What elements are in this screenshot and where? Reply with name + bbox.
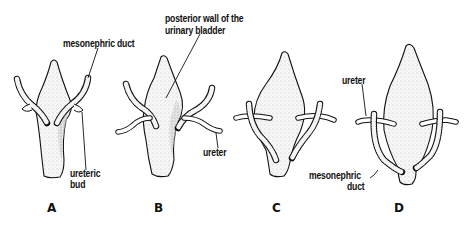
panel-d-drawing xyxy=(358,44,456,184)
label-ureteric-bud-line2: bud xyxy=(70,179,85,190)
diagram-canvas: mesonephric duct ureteric bud posterior … xyxy=(0,0,474,225)
panel-letter-c: C xyxy=(272,201,281,215)
label-ureter-d: ureter xyxy=(342,75,365,86)
panel-c-drawing xyxy=(236,52,334,177)
bladder-development-illustration xyxy=(0,0,474,225)
panel-letter-b: B xyxy=(154,201,163,215)
label-posterior-wall-line2: urinary bladder xyxy=(165,25,225,36)
panel-letter-a: A xyxy=(47,201,56,215)
label-posterior-wall-line1: posterior wall of the xyxy=(165,13,243,24)
panel-letter-d: D xyxy=(394,201,404,215)
panel-a-drawing xyxy=(17,48,98,178)
label-ureter-b: ureter xyxy=(203,147,226,158)
label-mesonephric-duct-d-line2: duct xyxy=(347,181,365,192)
label-mesonephric-duct-a: mesonephric duct xyxy=(63,38,135,49)
